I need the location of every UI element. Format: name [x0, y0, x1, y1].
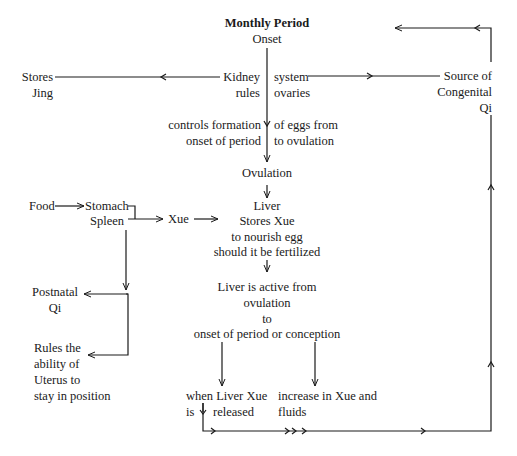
postnatal-line2: Qi — [25, 300, 85, 316]
eggs-line1: of eggs from — [274, 117, 338, 133]
when-line1: when Liver Xue — [186, 388, 267, 404]
ovaries-label: ovaries — [274, 85, 310, 101]
increase-line1: increase in Xue and — [278, 388, 377, 404]
food-label: Food — [29, 198, 55, 214]
liver-line1: Liver — [197, 198, 337, 214]
liver-line3: to nourish egg — [197, 229, 337, 245]
xue-label: Xue — [168, 211, 189, 227]
spleen-label: Spleen — [60, 213, 124, 229]
controls-line2: onset of period — [140, 133, 261, 149]
increase-line2: fluids — [278, 404, 306, 420]
system-label: system — [274, 69, 309, 85]
liver-line4: should it be fertilized — [197, 244, 337, 260]
uterus-line1: Rules the — [34, 340, 81, 356]
eggs-line2: to ovulation — [274, 133, 334, 149]
uterus-line4: stay in position — [34, 388, 110, 404]
active-line3: to — [187, 311, 347, 327]
uterus-line3: Uterus to — [34, 372, 80, 388]
diagram-title: Monthly Period — [207, 15, 327, 31]
stores-jing-line2: Jing — [0, 85, 53, 101]
stores-jing-line1: Stores — [0, 69, 53, 85]
active-line2: ovulation — [187, 295, 347, 311]
active-line4: onset of period or conception — [167, 326, 367, 342]
source-line2: Congenital — [410, 84, 492, 100]
ovulation-label: Ovulation — [217, 165, 317, 181]
when-line2b: released — [213, 404, 254, 420]
onset-label: Onset — [237, 31, 297, 47]
stomach-label: Stomach — [85, 198, 129, 214]
liver-line2: Stores Xue — [197, 213, 337, 229]
kidney-label: Kidney — [200, 69, 260, 85]
rules-label: rules — [200, 85, 260, 101]
uterus-line2: ability of — [34, 356, 79, 372]
when-line2a: is — [186, 404, 194, 420]
postnatal-line1: Postnatal — [25, 284, 85, 300]
source-line3: Qi — [410, 100, 492, 116]
source-line1: Source of — [410, 68, 492, 84]
controls-line1: controls formation — [140, 117, 261, 133]
active-line1: Liver is active from — [187, 279, 347, 295]
